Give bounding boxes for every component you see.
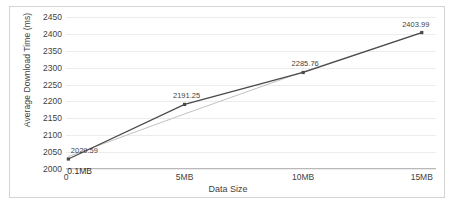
data-point-marker (302, 71, 305, 74)
data-line-path (68, 33, 421, 159)
data-point-label: 2029.59 (71, 146, 98, 155)
y-axis-tick-label: 2300 (32, 63, 62, 73)
y-axis-tick-label: 2150 (32, 113, 62, 123)
data-point-label: 2285.76 (292, 59, 319, 68)
x-axis-tick-labels: 05MB10MB15MB (66, 172, 436, 184)
x-axis-title: Data Size (10, 184, 446, 194)
plot-area: 2029.592191.252285.762403.990.1MB (66, 17, 436, 169)
y-axis-tick-label: 2200 (32, 96, 62, 106)
trendline-path (68, 33, 421, 157)
y-axis-tick-labels: 2000205021002150220022502300235024002450 (32, 17, 62, 169)
y-axis-tick-label: 2100 (32, 130, 62, 140)
y-axis-tick-label: 2400 (32, 29, 62, 39)
data-point-marker (183, 103, 186, 106)
x-axis-tick-label: 0 (64, 172, 69, 182)
chart-container: Average Download Time (ms) 2000205021002… (9, 6, 445, 198)
y-axis-tick-label: 2000 (32, 164, 62, 174)
data-point-label: 2191.25 (173, 91, 200, 100)
gridline (66, 169, 436, 170)
y-axis-tick-label: 2050 (32, 147, 62, 157)
data-point-marker (67, 157, 70, 160)
y-axis-tick-label: 2250 (32, 80, 62, 90)
data-point-marker (420, 31, 423, 34)
x-axis-tick-label: 5MB (176, 172, 193, 182)
x-axis-tick-label: 15MB (411, 172, 433, 182)
y-axis-tick-label: 2450 (32, 12, 62, 22)
data-point-label: 2403.99 (402, 20, 429, 29)
series-canvas (66, 17, 436, 169)
y-axis-title: Average Download Time (ms) (22, 0, 32, 140)
y-axis-tick-label: 2350 (32, 46, 62, 56)
x-axis-tick-label: 10MB (292, 172, 314, 182)
